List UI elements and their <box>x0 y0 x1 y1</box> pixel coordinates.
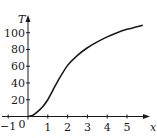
y-tick-label: 60 <box>11 60 25 73</box>
x-tick-label: −1 <box>0 120 16 133</box>
x-tick-label: 3 <box>84 121 91 134</box>
y-axis-arrow-icon <box>26 15 31 22</box>
y-tick-label: 20 <box>11 94 25 107</box>
y-tick-label: 100 <box>4 27 25 40</box>
tick-labels: −101234520406080100 <box>0 27 130 134</box>
x-tick-label: 2 <box>64 121 71 134</box>
x-axis-label: x <box>150 121 157 134</box>
chart: −101234520406080100 x T <box>0 0 157 138</box>
x-axis-arrow-icon <box>143 114 150 119</box>
data-curve <box>28 25 143 116</box>
y-tick-label: 80 <box>11 43 25 56</box>
x-tick-label: 4 <box>104 121 111 134</box>
ticks <box>8 33 127 119</box>
x-tick-label: 1 <box>44 121 51 134</box>
x-tick-label: 0 <box>19 118 26 131</box>
y-tick-label: 40 <box>11 77 25 90</box>
y-axis-label: T <box>18 13 27 26</box>
x-tick-label: 5 <box>124 121 131 134</box>
